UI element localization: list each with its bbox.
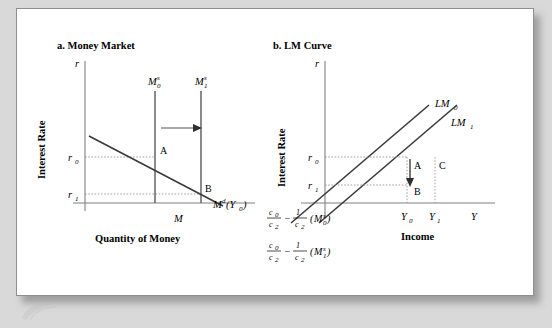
svg-text:−: − [284,246,291,257]
panel-b-tick-r1: r 1 [308,180,319,194]
panel-b-point-c: C [439,160,446,171]
svg-text:0: 0 [409,217,413,225]
svg-text:2: 2 [301,223,305,231]
decorative-swoosh [20,300,60,322]
svg-text:−: − [284,213,291,224]
panel-b-y-axis-name: Interest Rate [276,128,287,187]
panel-money-market: a. Money Market r Interest Rate r 0 r 1 … [17,9,275,295]
panel-b-tick-r0: r 0 [308,152,319,166]
panel-a-x-axis-symbol: M [173,213,184,224]
panel-b-tick-y1: Y 1 [429,211,441,225]
panel-b-title: b. LM Curve [273,40,332,51]
svg-text:s: s [157,74,160,82]
svg-text:): ) [242,199,247,211]
svg-text:1: 1 [470,123,474,131]
svg-text:r: r [308,152,313,163]
panel-a-title: a. Money Market [57,40,135,51]
panel-b-point-b: B [414,186,421,197]
svg-text:c: c [269,241,273,250]
svg-text:0: 0 [75,158,79,166]
svg-text:1: 1 [75,195,79,203]
lm-curve-1-label: LM 1 [450,117,474,131]
panel-a-y-axis-name: Interest Rate [36,120,47,179]
svg-text:c: c [269,253,273,262]
panel-b-tick-y0: Y 0 [401,211,413,225]
svg-text:M: M [313,246,323,257]
money-supply-shift-arrow [161,124,202,132]
svg-text:2: 2 [275,256,279,264]
svg-text:r: r [308,180,313,191]
svg-text:r: r [68,189,73,200]
svg-text:M: M [313,213,323,224]
money-demand-curve [89,136,223,206]
panel-b-x-axis-name: Income [401,231,435,242]
panel-a-y-axis-symbol: r [75,58,80,69]
svg-text:LM: LM [450,117,467,128]
svg-text:0: 0 [315,158,319,166]
svg-text:): ) [326,213,331,225]
lm-intercept-0: c 0 c 2 − 1 c 2 ( M s 0 ) [267,208,331,231]
svg-text:(Y: (Y [226,199,236,211]
panel-b-y-axis-symbol: r [315,58,320,69]
panel-a-tick-r1: r 1 [68,189,79,203]
svg-text:1: 1 [296,208,300,217]
svg-text:Y: Y [429,211,436,222]
panel-b-point-a: A [414,160,422,171]
svg-text:c: c [269,220,273,229]
panel-a-x-axis-name: Quantity of Money [95,233,181,244]
panel-lm-curve: b. LM Curve r Interest Rate LM 0 LM 1 r … [255,9,517,295]
figure-card: a. Money Market r Interest Rate r 0 r 1 … [16,8,534,296]
panel-a-point-a: A [160,145,168,156]
svg-text:): ) [326,246,331,258]
svg-text:Y: Y [401,211,408,222]
lm-curve-0-label: LM 0 [434,98,458,112]
svg-text:c: c [269,208,273,217]
panel-a-point-b: B [205,183,212,194]
svg-text:s: s [204,74,207,82]
panel-b-x-axis-symbol: Y [471,211,478,222]
svg-text:1: 1 [323,252,327,260]
svg-text:c: c [295,220,299,229]
lm-intercept-1: c 0 c 2 − 1 c 2 ( M s 1 ) [267,241,331,264]
svg-text:1: 1 [437,217,441,225]
svg-text:2: 2 [275,223,279,231]
money-demand-label: M d (Y 0 ) [212,197,247,213]
svg-text:1: 1 [296,241,300,250]
lm-curve-1 [319,105,457,223]
svg-text:1: 1 [315,186,319,194]
money-supply-label-0: M s 0 [147,74,161,90]
svg-text:r: r [68,152,73,163]
svg-text:1: 1 [204,82,208,90]
svg-text:c: c [295,253,299,262]
svg-text:2: 2 [301,256,305,264]
lm-curve-0 [291,105,429,223]
panel-a-tick-r0: r 0 [68,152,79,166]
svg-text:LM: LM [434,98,451,109]
money-supply-label-1: M s 1 [194,74,208,90]
svg-text:0: 0 [157,82,161,90]
